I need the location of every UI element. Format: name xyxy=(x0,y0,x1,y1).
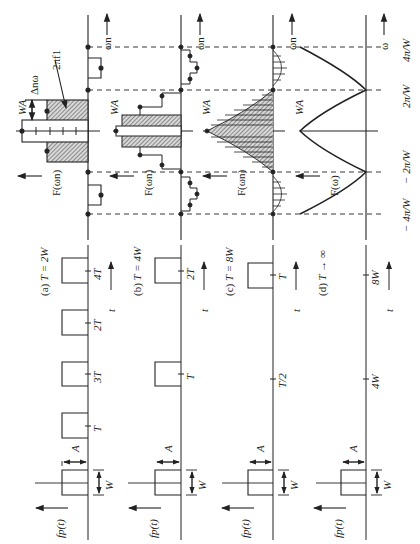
tick-a-T: T xyxy=(91,425,103,432)
t-label-b: t xyxy=(198,308,210,312)
time-axis-arrows xyxy=(111,262,389,290)
freq-tick-neg4pi: − 4π/W xyxy=(400,198,412,232)
omega-label-a: ωn xyxy=(101,37,113,50)
spectrum-label-b: F(ωn) xyxy=(142,169,155,196)
spectrum-label-a: F(ωn) xyxy=(50,169,63,196)
tick-a-4T: 4T xyxy=(91,268,103,281)
tick-b-2T: 2T xyxy=(184,268,196,281)
a-label-c: A xyxy=(254,445,266,453)
w-label-a: W xyxy=(103,480,115,490)
wa-label-c: WA xyxy=(200,100,212,115)
tick-a-3T: 3T xyxy=(91,371,103,385)
freq-axis-arrows xyxy=(107,14,384,35)
a-label-a: A xyxy=(69,445,81,453)
tick-a-2T: 2T xyxy=(91,319,103,332)
fourier-figure: (a) T = 2W (b) T = 4W (c) T = 8W (d) T →… xyxy=(0,0,420,544)
wa-label-a: WA xyxy=(16,100,28,115)
wa-label-b: WA xyxy=(108,100,120,115)
w-label-c: W xyxy=(288,480,300,490)
tick-d-8W: 8W xyxy=(369,270,381,286)
t-label-d: t xyxy=(383,308,395,312)
omega-label-c: ωn xyxy=(286,37,298,50)
caption-b: (b) T = 4W xyxy=(131,246,144,296)
wa-label-d: WA xyxy=(293,100,305,115)
freq-tick-2pi: 2π/W xyxy=(400,84,412,108)
tick-b-T: T xyxy=(184,373,196,380)
fp-label-b: fp(t) xyxy=(147,519,160,538)
caption-a: (a) T = 2W xyxy=(38,247,51,296)
tick-c-T: T xyxy=(276,273,288,280)
two-pi-f1-label: 2πf1 xyxy=(50,50,62,70)
t-label-c: t xyxy=(290,308,302,312)
dimension-markers xyxy=(35,461,382,495)
w-label-d: W xyxy=(381,480,393,490)
fp-label-d: fp(t) xyxy=(332,519,345,538)
delta-omega-label: Δnω xyxy=(28,75,40,95)
spectrum-label-d: F(ω) xyxy=(328,175,341,196)
fp-label-a: fp(t) xyxy=(54,519,67,538)
a-label-b: A xyxy=(162,445,174,453)
caption-c: (c) T = 8W xyxy=(223,247,236,296)
freq-tick-neg2pi: − 2π/W xyxy=(400,150,412,184)
spectrum-label-c: F(ωn) xyxy=(235,169,248,196)
fp-label-c: fp(t) xyxy=(239,519,252,538)
freq-tick-4pi: 4π/W xyxy=(400,38,412,62)
figure-canvas: (a) T = 2W (b) T = 4W (c) T = 8W (d) T →… xyxy=(0,0,420,544)
t-label-a: t xyxy=(105,308,117,312)
w-label-b: W xyxy=(196,480,208,490)
tick-d-4W: 4W xyxy=(369,374,381,390)
a-label-d: A xyxy=(347,445,359,453)
tick-c-T2: T/2 xyxy=(276,373,288,388)
omega-label-d: ω xyxy=(378,43,390,50)
omega-label-b: ωn xyxy=(194,37,206,50)
caption-d: (d) T → ∞ xyxy=(316,250,329,296)
